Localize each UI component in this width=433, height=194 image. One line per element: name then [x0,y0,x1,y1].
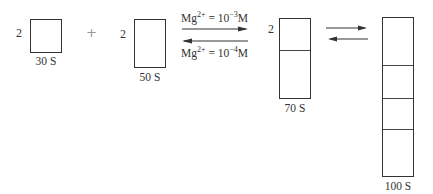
subunit-30s-box [30,19,62,53]
ion-charge: 2+ [197,10,206,19]
subunit-50s-box [134,19,166,68]
coefficient-30s: 2 [16,27,22,39]
condition-forward: Mg2+ = 10−3M [181,12,248,24]
label-50s: 50 S [134,71,166,83]
dimer-100s-box [382,17,414,177]
ion-charge: 2+ [197,45,206,54]
subunit-divider [383,65,413,66]
unit: M [238,12,248,24]
exponent: −3 [229,10,238,19]
label-100s: 100 S [378,180,418,192]
ion-symbol: Mg [181,12,197,24]
equilibrium-arrows-1 [180,24,250,46]
ion-symbol: Mg [181,47,197,59]
unit: M [238,47,248,59]
subunit-divider [383,98,413,99]
label-70s: 70 S [279,102,311,114]
plus-sign: + [86,26,97,39]
coefficient-70s: 2 [268,23,274,35]
reverse-arrow [182,39,248,44]
forward-arrow [182,27,248,32]
coefficient-50s: 2 [120,28,126,40]
subunit-divider [280,50,310,51]
exponent: −4 [229,45,238,54]
subunit-divider [383,129,413,130]
label-30s: 30 S [30,55,62,67]
ribosome-70s-box [279,18,311,99]
equilibrium-arrows-2 [325,23,369,43]
equals-base: = 10 [206,47,230,59]
forward-arrow [326,26,367,31]
equals-base: = 10 [206,12,230,24]
reverse-arrow [328,37,368,42]
condition-reverse: Mg2+ = 10−4M [181,47,248,59]
